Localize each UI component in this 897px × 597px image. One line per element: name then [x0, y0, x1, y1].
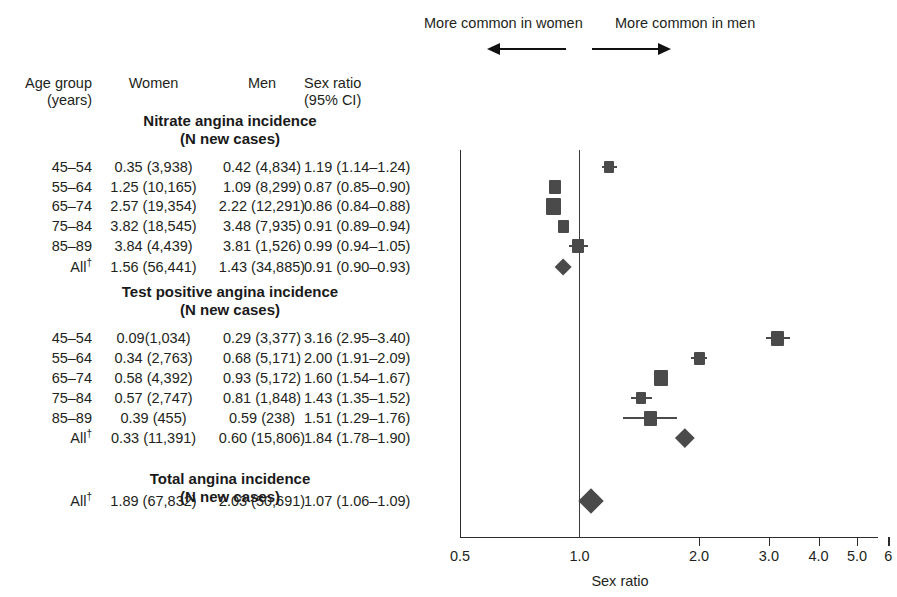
x-axis-tick-label: 2.0	[677, 548, 721, 564]
point-estimate-marker	[546, 198, 561, 215]
x-axis-tick-label: 6	[866, 548, 897, 564]
point-estimate-marker	[654, 370, 668, 386]
x-axis-line	[460, 537, 878, 538]
x-axis-tick	[769, 537, 770, 546]
point-estimate-marker	[644, 411, 657, 426]
x-axis-tick	[819, 537, 820, 546]
point-estimate-marker	[558, 220, 569, 233]
x-axis-tick-label: 0.5	[438, 548, 482, 564]
point-estimate-marker	[604, 161, 614, 173]
x-axis-tick	[888, 537, 889, 546]
x-axis-tick-label: 1.0	[558, 548, 602, 564]
point-estimate-marker	[549, 180, 561, 194]
reference-line-1	[579, 150, 580, 538]
x-axis-tick	[699, 537, 700, 546]
x-axis-tick-label: 4.0	[797, 548, 841, 564]
summary-diamond-marker	[675, 428, 694, 447]
point-estimate-marker	[694, 352, 705, 365]
annotation-more-common-women: More common in women	[424, 15, 583, 31]
point-estimate-marker	[636, 392, 646, 404]
y-axis-line	[460, 150, 461, 538]
point-estimate-marker	[572, 239, 584, 253]
x-axis-tick-label: 3.0	[747, 548, 791, 564]
x-axis-title: Sex ratio	[560, 573, 680, 589]
annotation-more-common-men: More common in men	[615, 15, 755, 31]
x-axis-tick	[857, 537, 858, 546]
point-estimate-marker	[771, 331, 784, 346]
summary-diamond-marker	[578, 488, 603, 513]
summary-diamond-marker	[555, 258, 572, 275]
